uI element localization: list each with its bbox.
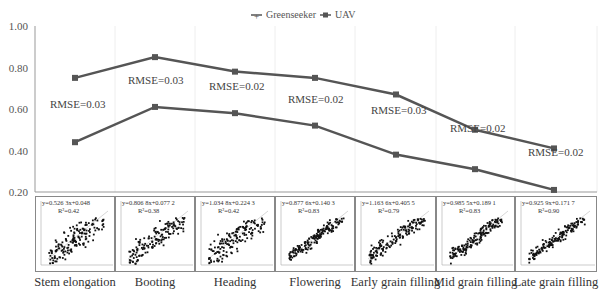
r-squared: R²=0.38 (138, 207, 159, 214)
regression-equation: y=0.806 8x+0.077 2 (122, 199, 175, 206)
rmse-annotations: RMSE=0.03RMSE=0.03RMSE=0.02RMSE=0.02RMSE… (50, 74, 583, 158)
legend-greenseeker: Greenseeker (266, 9, 317, 20)
data-point (232, 110, 238, 116)
r-squared: R²=0.83 (459, 207, 480, 214)
data-point (393, 91, 399, 97)
rmse-label: RMSE=0.02 (450, 122, 505, 134)
data-point (72, 139, 78, 145)
regression-equation: y=1.163 6x+0.405 5 (362, 199, 415, 206)
regression-equation: y=0.925 9x+0.171 7 (522, 199, 575, 206)
square-marker-icon (323, 13, 328, 18)
regression-equation: y=0.526 3x+0.048 (42, 199, 90, 206)
y-tick-label: 0.40 (9, 145, 29, 157)
rmse-label: RMSE=0.02 (288, 93, 343, 105)
stage-label: Late grain filling (505, 275, 600, 290)
regression-equation: y=0.985 5x+0.189 1 (443, 199, 496, 206)
y-tick-label: 0.20 (9, 186, 29, 198)
series-line-uav (75, 107, 554, 190)
y-tick-label: 0.80 (9, 62, 29, 74)
data-point (312, 123, 318, 129)
data-point (232, 69, 238, 75)
y-tick-label: 0.60 (9, 103, 29, 115)
scatter-panel: y=1.034 8x+0.224 3R²=0.42 (195, 196, 275, 272)
r-squared: R²=0.42 (218, 207, 239, 214)
legend-uav: UAV (335, 9, 356, 20)
data-point (152, 104, 158, 110)
scatter-panel: y=1.163 6x+0.405 5R²=0.79 (355, 196, 436, 272)
scatter-panel: y=0.877 6x+0.140 3R²=0.83 (275, 196, 355, 272)
scatter-panel: y=0.925 9x+0.171 7R²=0.90 (515, 196, 597, 272)
data-point (72, 75, 78, 81)
regression-equation: y=0.877 6x+0.140 3 (282, 199, 335, 206)
rmse-label: RMSE=0.03 (50, 98, 106, 110)
r-squared: R²=0.42 (58, 207, 79, 214)
scatter-panel: y=0.985 5x+0.189 1R²=0.83 (436, 196, 515, 272)
rmse-label: RMSE=0.03 (371, 104, 427, 116)
rmse-label: RMSE=0.02 (528, 146, 583, 158)
plus-marker-icon: + (254, 11, 259, 21)
data-point (152, 54, 158, 60)
r-squared: R²=0.90 (538, 207, 559, 214)
rmse-label: RMSE=0.02 (209, 80, 264, 92)
scatter-panel: y=0.526 3x+0.048R²=0.42 (35, 196, 115, 272)
scatter-panel: y=0.806 8x+0.077 2R²=0.38 (115, 196, 195, 272)
regression-equation: y=1.034 8x+0.224 3 (202, 199, 255, 206)
data-point (551, 187, 557, 193)
rmse-label: RMSE=0.03 (128, 74, 184, 86)
legend: +GreenseekerUAV (251, 9, 356, 21)
data-point (472, 166, 478, 172)
data-point (393, 152, 399, 158)
y-tick-label: 1.00 (9, 20, 29, 32)
r-squared: R²=0.83 (298, 207, 319, 214)
r-squared: R²=0.79 (378, 207, 399, 214)
data-point (312, 75, 318, 81)
y-axis-ticks: 1.000.800.600.400.20 (9, 20, 29, 198)
